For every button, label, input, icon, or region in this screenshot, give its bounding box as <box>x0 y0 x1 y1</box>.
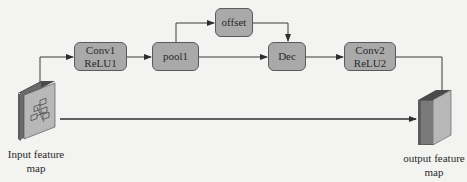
dec-label: Dec <box>278 50 296 63</box>
dec-node: Dec <box>268 42 306 71</box>
input-label-line2: map <box>0 161 72 175</box>
input-feature-map-label: Input feature map <box>0 147 72 175</box>
output-label-line1: output feature <box>397 151 467 165</box>
pool1-node: pool1 <box>152 42 199 71</box>
edge-offset-to-dec <box>253 23 288 41</box>
conv1-label: Conv1 <box>86 44 115 57</box>
output-feature-map-label: output feature map <box>397 151 467 179</box>
offset-label: offset <box>222 16 247 29</box>
diagram-canvas: Conv1 ReLU1 pool1 offset Dec Conv2 ReLU2… <box>0 0 467 182</box>
conv2-label: Conv2 <box>355 44 384 57</box>
relu1-label: ReLU1 <box>84 57 116 70</box>
relu2-label: ReLU2 <box>354 57 386 70</box>
input-label-line1: Input feature <box>0 147 72 161</box>
output-feature-map-icon <box>418 90 451 145</box>
input-feature-map-icon <box>18 81 55 141</box>
output-label-line2: map <box>397 165 467 179</box>
conv1-relu1-node: Conv1 ReLU1 <box>74 42 127 71</box>
pool1-label: pool1 <box>163 50 188 63</box>
edge-input-to-conv1 <box>40 57 73 84</box>
edge-pool1-to-offset <box>176 23 214 42</box>
offset-node: offset <box>215 8 253 37</box>
conv2-relu2-node: Conv2 ReLU2 <box>344 42 396 71</box>
